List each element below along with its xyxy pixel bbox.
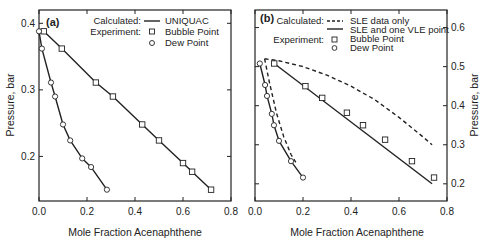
dew-point-marker (300, 175, 305, 180)
panel-label: (b) (260, 12, 274, 24)
dew-point-marker (104, 187, 109, 192)
y-tick-label: 0.4 (21, 18, 35, 29)
panel-b: (b) 0.00.20.40.60.8 0.20.30.40.50.6 Mole… (248, 10, 480, 238)
bubble-point-marker (59, 46, 64, 51)
legend-group-calculated: Calculated: (276, 15, 324, 26)
series-layer (257, 59, 437, 184)
series-layer (36, 29, 213, 193)
bubble-point-marker (189, 169, 194, 174)
dew-point-marker (269, 111, 274, 116)
dashed-curve (265, 59, 433, 145)
x-axis-title: Mole Fraction Acenaphthene (290, 226, 424, 238)
y-tick-label: 0.2 (451, 178, 465, 189)
dashed-curve (265, 59, 296, 163)
legend-square-marker-icon (150, 29, 155, 34)
dew-point-marker (257, 61, 262, 66)
bubble-point-marker (208, 187, 213, 192)
bubble-point-marker (431, 175, 436, 180)
solid-curve (274, 64, 432, 184)
y-axis-title: Pressure, bar (468, 73, 480, 137)
x-tick-label: 0.0 (32, 206, 46, 217)
dew-point-marker (271, 123, 276, 128)
x-tick-label: 0.6 (176, 206, 190, 217)
x-tick-label: 0.4 (128, 206, 142, 217)
legend-circle-marker-icon (332, 46, 337, 51)
solid-curve (39, 31, 107, 189)
dew-point-marker (48, 80, 53, 85)
bubble-point-marker (344, 110, 349, 115)
x-tick-label: 0.8 (224, 206, 238, 217)
chart-canvas: (a) 0.00.20.40.60.8 0.20.30.4 Mole Fract… (0, 0, 485, 241)
legend-square-marker-icon (332, 37, 337, 42)
dew-point-marker (36, 29, 41, 34)
x-tick-label: 0.2 (296, 206, 310, 217)
dew-point-marker (80, 156, 85, 161)
x-tick-label: 0.8 (440, 206, 454, 217)
dew-point-marker (276, 138, 281, 143)
panel-a: (a) 0.00.20.40.60.8 0.20.30.4 Mole Fract… (4, 10, 238, 238)
bubble-point-marker (140, 122, 145, 127)
y-tick-label: 0.2 (21, 151, 35, 162)
bubble-point-marker (320, 95, 325, 100)
figure: (a) 0.00.20.40.60.8 0.20.30.4 Mole Fract… (0, 0, 485, 241)
legend-group-calculated: Calculated: (93, 15, 141, 26)
dew-point-marker (60, 122, 65, 127)
y-tick-label: 0.3 (21, 84, 35, 95)
panel-label: (a) (46, 16, 60, 28)
legend-label-uniquac: UNIQUAC (165, 15, 209, 26)
bubble-point-marker (382, 137, 387, 142)
dew-point-marker (288, 159, 293, 164)
bubble-point-marker (272, 61, 277, 66)
legend-group-experiment: Experiment: (90, 26, 141, 37)
dew-point-marker (68, 138, 73, 143)
bubble-point-marker (110, 94, 115, 99)
bubble-point-marker (156, 138, 161, 143)
bubble-point-marker (93, 80, 98, 85)
dew-point-marker (52, 94, 57, 99)
legend-group-experiment: Experiment: (273, 34, 324, 45)
x-axis-title: Mole Fraction Acenaphthene (68, 226, 202, 238)
legend-label-bubble-point: Bubble Point (165, 26, 219, 37)
legend: Calculated: SLE data only SLE and one VL… (273, 15, 449, 53)
x-tick-label: 0.2 (80, 206, 94, 217)
bubble-point-marker (360, 123, 365, 128)
x-tick-label: 0.6 (392, 206, 406, 217)
legend-label-dew-point: Dew Point (350, 42, 394, 53)
y-axis-title: Pressure, bar (4, 73, 16, 137)
x-tick-label: 0.0 (248, 206, 262, 217)
dew-point-marker (39, 46, 44, 51)
bubble-point-marker (409, 158, 414, 163)
y-tick-label: 0.3 (451, 139, 465, 150)
y-tick-label: 0.4 (451, 100, 465, 111)
y-tick-label: 0.6 (451, 22, 465, 33)
legend: Calculated: UNIQUAC Experiment: Bubble P… (90, 15, 219, 48)
dew-point-marker (262, 82, 267, 87)
dew-point-marker (88, 164, 93, 169)
bubble-point-marker (303, 83, 308, 88)
dew-point-marker (264, 93, 269, 98)
legend-circle-marker-icon (150, 41, 155, 46)
y-tick-label: 0.5 (451, 61, 465, 72)
x-tick-label: 0.4 (344, 206, 358, 217)
legend-label-dew-point: Dew Point (165, 37, 209, 48)
bubble-point-marker (180, 160, 185, 165)
